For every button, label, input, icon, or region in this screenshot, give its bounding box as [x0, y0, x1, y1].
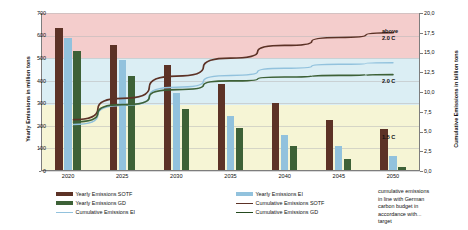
- y-tick-right-20-0: 20,0: [424, 10, 448, 16]
- annotation-line5: target: [378, 218, 466, 226]
- x-axis-line: [41, 170, 420, 171]
- legend-item-cumulative-emissions-ei[interactable]: Cumulative Emissions EI: [56, 209, 135, 215]
- band-label-2: 2.0 C: [382, 78, 395, 86]
- legend-swatch-bar: [236, 192, 253, 196]
- y-tick-left-200: 200: [24, 123, 46, 129]
- legend-item-yearly-emissions-ei[interactable]: Yearly Emissions EI: [236, 191, 303, 197]
- chart-legend: Yearly Emissions SOTFYearly Emissions GD…: [56, 191, 386, 223]
- y-tick-right-2-5: 2,5: [424, 148, 448, 154]
- y-tick-right-0-0: 0,0: [424, 168, 448, 174]
- y-tick-right-10-0: 10,0: [424, 89, 448, 95]
- y-tick-right-7-5: 7,5: [424, 109, 448, 115]
- legend-label: Yearly Emissions SOTF: [76, 191, 133, 197]
- y-tickmark-left: [39, 126, 42, 127]
- annotation-line4: accordance with...: [378, 211, 466, 219]
- y-tickmark-right: [420, 92, 423, 93]
- y-tickmark-right: [420, 13, 423, 14]
- chart-root: Yearly Emissions in million tons Cumulat…: [0, 0, 468, 230]
- legend-item-yearly-emissions-sotf[interactable]: Yearly Emissions SOTF: [56, 191, 132, 197]
- legend-swatch-line: [236, 203, 253, 204]
- legend-item-cumulative-emissions-sotf[interactable]: Cumulative Emissions SOTF: [236, 200, 324, 206]
- budget-annotation: cumulative emissionsin line with Germanc…: [378, 188, 466, 226]
- x-tick-2050: 2050: [373, 173, 413, 179]
- y-tick-right-12-5: 12,5: [424, 69, 448, 75]
- y-tickmark-right: [420, 171, 423, 172]
- band-label-line2: 2.0 C: [382, 35, 398, 43]
- y-tickmark-right: [420, 151, 423, 152]
- band-label-line1: above: [382, 28, 398, 36]
- y-tickmark-left: [39, 171, 42, 172]
- legend-swatch-bar: [56, 192, 73, 196]
- x-tick-2025: 2025: [102, 173, 142, 179]
- band-label-3: 1.5 C: [382, 134, 395, 142]
- legend-label: Yearly Emissions GD: [76, 200, 126, 206]
- annotation-line1: cumulative emissions: [378, 188, 466, 196]
- y-tickmark-left: [39, 58, 42, 59]
- annotation-line3: carbon budget in: [378, 203, 466, 211]
- x-tick-2035: 2035: [211, 173, 251, 179]
- x-tick-2040: 2040: [265, 173, 305, 179]
- y-tick-right-15-0: 15,0: [424, 49, 448, 55]
- legend-label: Yearly Emissions EI: [256, 191, 303, 197]
- band-label-line1: 2.0 C: [382, 78, 395, 86]
- y-tick-right-17-5: 17,5: [424, 30, 448, 36]
- y-tickmark-left: [39, 81, 42, 82]
- legend-swatch-bar: [56, 201, 73, 205]
- x-tick-2020: 2020: [48, 173, 88, 179]
- y-axis-label-right: Cumulative Emissions in billion tons: [453, 39, 459, 159]
- y-tick-left-100: 100: [24, 145, 46, 151]
- y-tickmark-right: [420, 33, 423, 34]
- line-cumulative-emissions-ei: [73, 63, 392, 125]
- y-tick-left-400: 400: [24, 78, 46, 84]
- legend-label: Cumulative Emissions GD: [256, 209, 319, 215]
- y-tick-left-700: 700: [24, 10, 46, 16]
- x-tick-2030: 2030: [156, 173, 196, 179]
- y-tick-right-5-0: 5,0: [424, 128, 448, 134]
- legend-swatch-line: [236, 212, 253, 213]
- y-tickmark-right: [420, 72, 423, 73]
- y-tickmark-left: [39, 148, 42, 149]
- y-tick-left-300: 300: [24, 100, 46, 106]
- y-tickmark-right: [420, 112, 423, 113]
- y-tickmark-left: [39, 13, 42, 14]
- y-tickmark-right: [420, 53, 423, 54]
- legend-item-yearly-emissions-gd[interactable]: Yearly Emissions GD: [56, 200, 126, 206]
- legend-label: Cumulative Emissions EI: [76, 209, 136, 215]
- y-tick-left-600: 600: [24, 32, 46, 38]
- cumulative-line-layer: [41, 13, 420, 171]
- band-label-line1: 1.5 C: [382, 134, 395, 142]
- band-label-1: above2.0 C: [382, 28, 398, 43]
- y-tickmark-right: [420, 132, 423, 133]
- legend-label: Cumulative Emissions SOTF: [256, 200, 325, 206]
- plot-area: above2.0 C2.0 C1.5 C: [41, 13, 420, 171]
- y-tick-left-500: 500: [24, 55, 46, 61]
- legend-swatch-line: [56, 212, 73, 213]
- y-tickmark-left: [39, 36, 42, 37]
- legend-item-cumulative-emissions-gd[interactable]: Cumulative Emissions GD: [236, 209, 318, 215]
- x-tick-2045: 2045: [319, 173, 359, 179]
- y-tick-left-0: 0: [24, 168, 46, 174]
- annotation-line2: in line with German: [378, 196, 466, 204]
- gridline: [41, 171, 420, 172]
- y-tickmark-left: [39, 103, 42, 104]
